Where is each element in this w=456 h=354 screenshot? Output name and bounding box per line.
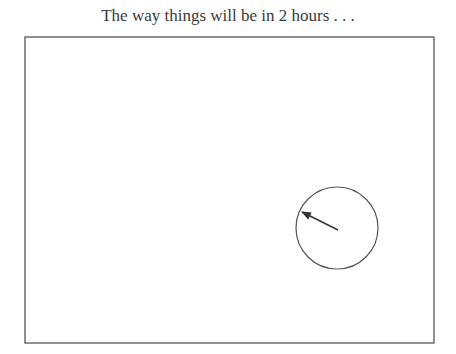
arrow-icon bbox=[302, 212, 338, 230]
circle-shape bbox=[296, 187, 378, 269]
diagram-canvas bbox=[0, 0, 456, 354]
frame-box bbox=[25, 37, 434, 343]
